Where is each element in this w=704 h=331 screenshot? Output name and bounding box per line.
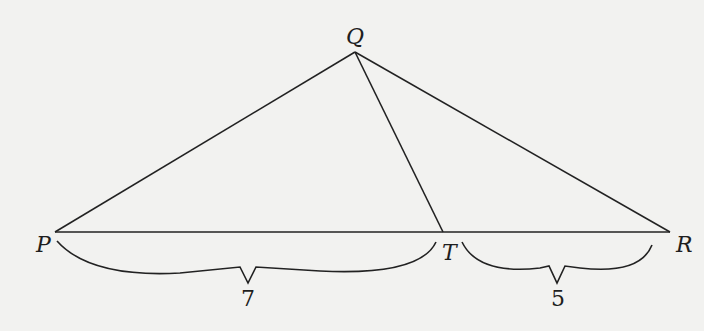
brace-tr (462, 242, 652, 283)
segment-pq (55, 52, 355, 232)
vertex-label-p: P (35, 232, 52, 257)
vertex-label-r: R (675, 232, 693, 257)
brace-pt (57, 241, 436, 283)
segment-qt (355, 52, 443, 232)
vertex-label-t: T (442, 240, 459, 265)
vertex-label-q: Q (346, 24, 364, 49)
diagram-canvas: Q P T R 7 5 (0, 0, 704, 331)
measurement-label-tr: 5 (551, 286, 565, 311)
segment-qr (355, 52, 670, 232)
measurement-label-pt: 7 (241, 286, 255, 311)
